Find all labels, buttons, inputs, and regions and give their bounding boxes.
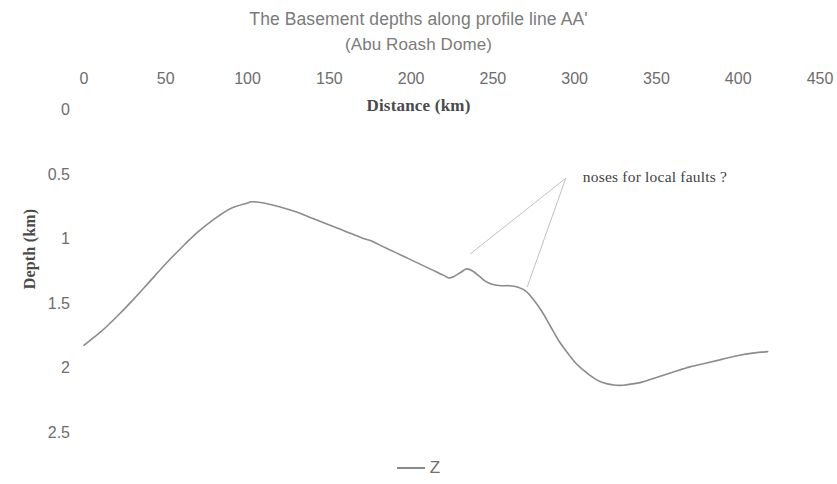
- plot-area: [0, 0, 837, 484]
- series-line-z: [84, 202, 768, 386]
- chart-legend: Z: [0, 458, 837, 478]
- annotation-leader-line: [527, 178, 566, 287]
- data-series-layer: [84, 202, 768, 386]
- annotation-leader-line: [470, 178, 566, 254]
- legend-item-label: Z: [430, 458, 440, 478]
- legend-line-swatch: [397, 467, 425, 469]
- chart-container: The Basement depths along profile line A…: [0, 0, 837, 484]
- chart-annotation-text: noses for local faults ?: [583, 168, 727, 186]
- annotation-leader-lines: [470, 178, 566, 287]
